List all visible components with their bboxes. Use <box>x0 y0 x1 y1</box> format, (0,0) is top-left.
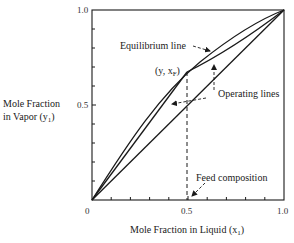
feed-point-text: (y, x <box>155 65 173 76</box>
feed-point-label: (y, xF) <box>155 65 180 76</box>
equilibrium-arrow <box>193 46 210 51</box>
operating-line-upper <box>187 10 284 72</box>
x-tick-05: 0.5 <box>181 206 192 217</box>
y-axis-label-line2: in Vapor (y1) <box>3 111 60 122</box>
feed-composition-label: Feed composition <box>196 172 267 183</box>
operating-lines-label: Operating lines <box>218 88 279 99</box>
x-axis-label: Mole Fraction in Liquid (x1) <box>130 224 244 235</box>
y-axis-label-close: ) <box>51 111 54 122</box>
x-axis-label-close: ) <box>241 224 244 235</box>
y-tick-05: 0.5 <box>77 100 88 111</box>
y-tick-1: 1.0 <box>77 5 88 16</box>
equilibrium-line-label: Equilibrium line <box>120 40 186 51</box>
x-axis-label-text: Mole Fraction in Liquid (x <box>130 224 237 235</box>
x-tick-1: 1.0 <box>277 206 288 217</box>
operating-line-lower <box>92 72 187 200</box>
mccabe-thiele-diagram: 1.0 0.5 0 0.5 1.0 Mole Fraction in Vapor… <box>0 0 294 243</box>
y-axis-label-text: in Vapor (y <box>3 111 48 122</box>
y-axis-label-line1: Mole Fraction <box>3 98 60 109</box>
x-tick-0: 0 <box>85 206 90 217</box>
x-axis-ticks <box>111 196 265 200</box>
y-axis-label: Mole Fraction in Vapor (y1) <box>3 98 60 122</box>
y-axis-ticks <box>92 29 96 181</box>
feed-point-close: ) <box>177 65 180 76</box>
feed-arrow <box>192 183 205 196</box>
